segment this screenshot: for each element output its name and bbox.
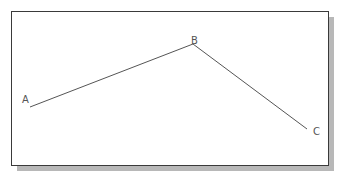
segment-b-c [193,44,307,129]
segment-a-b [30,44,193,107]
point-label-c: C [313,126,320,137]
diagram-canvas: A B C [0,0,339,174]
point-label-a: A [22,94,29,105]
point-label-b: B [191,35,198,46]
